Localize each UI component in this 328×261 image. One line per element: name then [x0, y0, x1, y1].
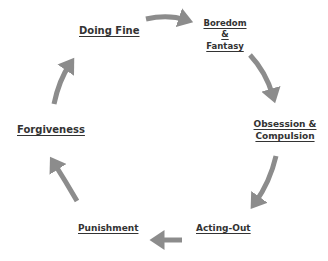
stage-punishment: Punishment [78, 223, 138, 235]
arrow-forgiveness-to-doing-fine [54, 64, 70, 104]
stage-label: Forgiveness [17, 124, 85, 135]
stage-obsession-compulsion: Obsession & Compulsion [250, 119, 320, 142]
arrow-punishment-to-forgiveness [54, 163, 77, 201]
stage-label-line2: & [200, 29, 250, 40]
stage-boredom-fantasy: Boredom & Fantasy [200, 18, 250, 52]
stage-label: Punishment [78, 223, 138, 233]
stage-label-line3: Fantasy [200, 41, 250, 52]
arrow-doing-fine-to-boredom [146, 17, 186, 20]
stage-label: Doing Fine [79, 25, 140, 36]
arrow-boredom-to-obsession [250, 55, 273, 96]
cycle-diagram: Doing Fine Boredom & Fantasy Obsession &… [0, 0, 328, 261]
stage-acting-out: Acting-Out [196, 223, 251, 235]
stage-forgiveness: Forgiveness [17, 124, 85, 136]
arrow-obsession-to-acting-out [255, 156, 276, 203]
stage-label-line1: Boredom [200, 18, 250, 29]
stage-label: Acting-Out [196, 223, 251, 233]
stage-label-line2: Compulsion [250, 131, 320, 143]
stage-doing-fine: Doing Fine [79, 25, 140, 37]
stage-label-line1: Obsession & [250, 119, 320, 131]
